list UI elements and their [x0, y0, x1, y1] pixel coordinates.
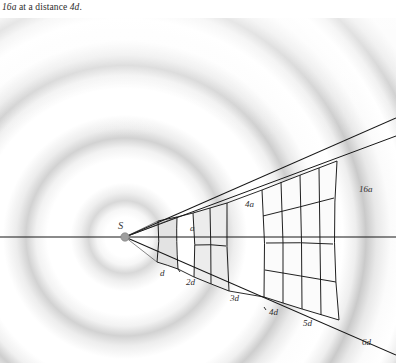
distance-label-2d: 2d — [186, 277, 196, 287]
area-label-16a: 16a — [359, 184, 373, 194]
distance-label-4d: 4d — [269, 307, 279, 317]
inverse-square-law-diagram: S a 4a 16a d 2d 3d 4d 5d 6d — [0, 18, 396, 363]
caption-area-value: 16a — [2, 2, 17, 12]
area-label-4a: 4a — [245, 199, 255, 209]
patch-area-1a — [157, 217, 178, 269]
figure-caption: 16a at a distance 4d. — [2, 1, 82, 13]
caption-middle-text: at a distance — [17, 2, 70, 12]
top-light-wash — [0, 18, 396, 138]
distance-label-5d: 5d — [303, 318, 313, 328]
distance-label-d: d — [160, 268, 165, 278]
figure-page: 16a at a distance 4d. — [0, 0, 396, 363]
distance-label-3d: 3d — [229, 293, 240, 303]
point-source-dot — [121, 233, 129, 241]
caption-period: . — [79, 2, 81, 12]
diagram-canvas: S a 4a 16a d 2d 3d 4d 5d 6d — [0, 18, 396, 363]
caption-distance-value: 4d — [70, 2, 80, 12]
area-label-a: a — [190, 223, 195, 233]
distance-label-6d: 6d — [362, 337, 372, 347]
source-label: S — [118, 220, 124, 231]
